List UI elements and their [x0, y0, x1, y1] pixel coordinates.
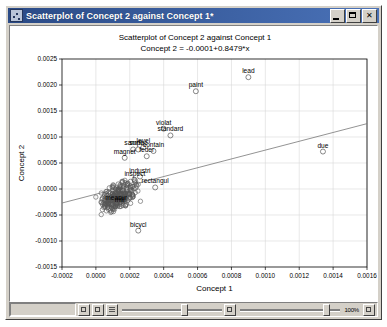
point-label: lead	[242, 67, 255, 74]
point-label: magnet	[114, 148, 136, 156]
point-label: mill	[115, 196, 125, 203]
window-title: Scatterplot of Concept 2 against Concept…	[26, 11, 330, 21]
plot-window: Scatterplot of Concept 2 against Concept…	[5, 5, 382, 320]
point-label: paint	[189, 81, 203, 89]
x-tick-label: -0.0002	[51, 272, 73, 279]
grid-tool-button[interactable]	[106, 304, 118, 316]
y-tick-label: 0.0020	[37, 81, 57, 88]
chart-icon	[10, 9, 23, 22]
point-label: bicycl	[130, 221, 147, 229]
plot-background	[10, 26, 378, 302]
slider-separator-button[interactable]	[224, 304, 236, 316]
window-controls: ✕	[330, 9, 377, 23]
window-titlebar[interactable]: Scatterplot of Concept 2 against Concept…	[8, 8, 379, 23]
zoom-level-label: 100%	[344, 307, 359, 313]
scatterplot[interactable]: Scatterplot of Concept 2 against Concept…	[10, 26, 378, 302]
slider-thumb[interactable]	[323, 304, 330, 316]
x-tick-label: 0.0010	[256, 272, 276, 279]
maximize-button[interactable]	[346, 9, 361, 23]
x-tick-label: 0.0002	[120, 272, 140, 279]
x-tick-label: 0.0016	[357, 272, 377, 279]
pan-tool-button[interactable]	[78, 304, 90, 316]
y-tick-label: 0.0025	[37, 55, 57, 62]
x-tick-label: 0.0004	[154, 272, 174, 279]
x-axis-label: Concept 1	[196, 284, 233, 293]
y-tick-label: -0.0010	[35, 237, 57, 244]
chart-subtitle: Concept 2 = -0.0001+0.8479*x	[141, 44, 250, 53]
chart-title: Scatterplot of Concept 2 against Concept…	[119, 33, 272, 42]
y-tick-label: 0.0000	[37, 185, 57, 192]
point-label: due	[317, 142, 328, 149]
select-tool-button[interactable]	[92, 304, 104, 316]
x-tick-label: 0.0014	[323, 272, 343, 279]
minimize-button[interactable]	[330, 9, 345, 23]
slider-thumb[interactable]	[181, 304, 188, 316]
status-bar: 100%	[9, 302, 378, 317]
y-tick-label: 0.0015	[37, 107, 57, 114]
point-label: feder	[139, 146, 155, 153]
close-button[interactable]: ✕	[362, 9, 377, 23]
resize-grip-icon[interactable]	[363, 304, 375, 316]
close-icon: ✕	[363, 10, 376, 22]
y-tick-label: -0.0015	[35, 263, 57, 270]
plot-canvas-area[interactable]: Scatterplot of Concept 2 against Concept…	[9, 25, 378, 302]
point-label: standard	[158, 125, 184, 132]
zoom-pane: 100%	[344, 304, 375, 316]
slider-track	[122, 309, 222, 312]
y-axis-label: Concept 2	[17, 144, 26, 181]
status-message-pane	[10, 303, 76, 316]
x-tick-label: 0.0000	[86, 272, 106, 279]
y-tick-label: 0.0005	[37, 159, 57, 166]
x-tick-label: 0.0012	[289, 272, 309, 279]
x-tick-label: 0.0006	[188, 272, 208, 279]
x-tick-label: 0.0008	[222, 272, 242, 279]
point-label: rectangul	[142, 177, 170, 185]
horizontal-scale-slider[interactable]	[122, 304, 222, 315]
y-tick-label: -0.0005	[35, 211, 57, 218]
y-tick-label: 0.0010	[37, 133, 57, 140]
vertical-scale-slider[interactable]	[240, 304, 340, 315]
